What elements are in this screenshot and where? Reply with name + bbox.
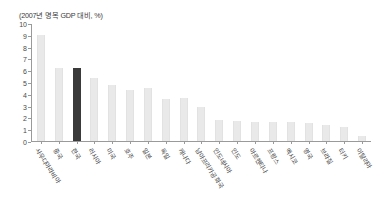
- x-tick-mark: [166, 141, 167, 144]
- x-tick-label: 영국: [301, 146, 315, 161]
- x-tick-mark: [112, 141, 113, 144]
- y-tick-mark: [28, 130, 31, 131]
- x-tick-label: 인도: [230, 146, 244, 161]
- chart-title: (2007년 명목 GDP 대비, %): [19, 10, 103, 20]
- bar[interactable]: [37, 35, 45, 141]
- bar-slot[interactable]: 호주: [121, 24, 139, 141]
- x-tick-mark: [326, 141, 327, 144]
- x-tick-mark: [130, 141, 131, 144]
- bar[interactable]: [197, 107, 205, 141]
- bar[interactable]: [340, 127, 348, 141]
- x-tick-label: 호주: [122, 146, 136, 161]
- bar-slot[interactable]: 중국: [50, 24, 68, 141]
- x-tick-label: 중국: [51, 146, 65, 161]
- y-tick-mark: [28, 48, 31, 49]
- bar-slot[interactable]: 멕시코: [282, 24, 300, 141]
- bar-slot[interactable]: 러시아: [86, 24, 104, 141]
- x-tick-label: 이탈리아: [354, 146, 374, 170]
- y-tick-label: 6: [23, 68, 27, 75]
- bar-slot[interactable]: 남아프리카공화국: [193, 24, 211, 141]
- x-tick-mark: [344, 141, 345, 144]
- bar-slot[interactable]: 인도: [228, 24, 246, 141]
- bar-slot[interactable]: 터키: [335, 24, 353, 141]
- bar[interactable]: [322, 125, 330, 141]
- bar[interactable]: [90, 78, 98, 141]
- bar-slot[interactable]: 아르헨티나: [246, 24, 264, 141]
- bar[interactable]: [162, 99, 170, 141]
- bar-slot[interactable]: 브라질: [317, 24, 335, 141]
- bar-slot[interactable]: 인도네시아: [210, 24, 228, 141]
- x-tick-label: 캐나다: [176, 146, 193, 166]
- x-tick-mark: [201, 141, 202, 144]
- y-tick-label: 7: [23, 56, 27, 63]
- x-tick-mark: [184, 141, 185, 144]
- y-tick-label: 1: [23, 127, 27, 134]
- x-tick-label: 한국: [69, 146, 83, 161]
- x-tick-mark: [255, 141, 256, 144]
- y-tick-label: 9: [23, 32, 27, 39]
- y-tick-mark: [28, 118, 31, 119]
- bar-slot[interactable]: 이탈리아: [353, 24, 371, 141]
- x-tick-mark: [309, 141, 310, 144]
- bar[interactable]: [55, 68, 63, 141]
- bar-chart-figure: (2007년 명목 GDP 대비, %) 109876543210 사우디아라비…: [0, 0, 379, 211]
- x-tick-label: 일본: [140, 146, 154, 161]
- y-tick-mark: [28, 95, 31, 96]
- y-tick-label: 5: [23, 80, 27, 87]
- x-tick-mark: [148, 141, 149, 144]
- bar[interactable]: [233, 121, 241, 141]
- bar-slot[interactable]: 미국: [103, 24, 121, 141]
- y-tick-label: 0: [23, 139, 27, 146]
- y-tick-mark: [28, 36, 31, 37]
- bar[interactable]: [144, 88, 152, 141]
- bar-slot[interactable]: 캐나다: [175, 24, 193, 141]
- x-tick-label: 러시아: [87, 146, 104, 166]
- y-tick-label: 8: [23, 44, 27, 51]
- bar[interactable]: [108, 85, 116, 141]
- x-tick-label: 브라질: [319, 146, 336, 166]
- x-tick-mark: [273, 141, 274, 144]
- bar[interactable]: [287, 122, 295, 141]
- x-tick-label: 미국: [105, 146, 119, 161]
- x-tick-label: 독일: [158, 146, 172, 161]
- bar-slot[interactable]: 독일: [157, 24, 175, 141]
- x-tick-mark: [237, 141, 238, 144]
- bar[interactable]: [215, 120, 223, 141]
- bar[interactable]: [73, 68, 81, 141]
- y-tick-mark: [28, 83, 31, 84]
- y-tick-label: 2: [23, 115, 27, 122]
- x-tick-mark: [94, 141, 95, 144]
- x-tick-mark: [362, 141, 363, 144]
- bar[interactable]: [251, 122, 259, 141]
- x-tick-mark: [41, 141, 42, 144]
- x-tick-label: 프랑스: [265, 146, 282, 166]
- bar-slot[interactable]: 사우디아라비아: [32, 24, 50, 141]
- bar-slot[interactable]: 일본: [139, 24, 157, 141]
- y-tick-mark: [28, 107, 31, 108]
- x-tick-mark: [291, 141, 292, 144]
- bar[interactable]: [269, 122, 277, 141]
- bar-slot[interactable]: 프랑스: [264, 24, 282, 141]
- x-tick-label: 터키: [337, 146, 351, 161]
- x-tick-mark: [59, 141, 60, 144]
- y-tick-mark: [28, 71, 31, 72]
- y-tick-label: 10: [19, 21, 27, 28]
- y-tick-label: 3: [23, 103, 27, 110]
- bar[interactable]: [305, 123, 313, 141]
- x-tick-mark: [77, 141, 78, 144]
- y-tick-mark: [28, 59, 31, 60]
- x-tick-label: 멕시코: [283, 146, 300, 166]
- y-tick-mark: [28, 142, 31, 143]
- x-tick-mark: [219, 141, 220, 144]
- plot-area: 109876543210 사우디아라비아중국한국러시아미국호주일본독일캐나다남아…: [31, 24, 371, 142]
- y-tick-label: 4: [23, 91, 27, 98]
- y-tick-mark: [28, 24, 31, 25]
- bars-group: 사우디아라비아중국한국러시아미국호주일본독일캐나다남아프리카공화국인도네시아인도…: [32, 24, 371, 141]
- bar-slot[interactable]: 한국: [68, 24, 86, 141]
- bar[interactable]: [126, 90, 134, 141]
- bar[interactable]: [180, 98, 188, 141]
- bar-slot[interactable]: 영국: [300, 24, 318, 141]
